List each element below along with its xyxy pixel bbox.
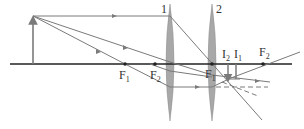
focal-point-dot (123, 62, 127, 66)
dashed-extension (222, 82, 258, 96)
focal-point-dot (261, 62, 265, 66)
ray-arrow-icon (112, 14, 117, 18)
lens-2-label: 2 (216, 2, 222, 16)
focal-point-dot (210, 62, 214, 66)
focal-point-dot (153, 62, 157, 66)
focal-label-f2-left: F2 (150, 68, 161, 84)
image-label-i2: I2 (222, 47, 230, 63)
focal-label-f2-right: F2 (259, 45, 270, 61)
lens-1-label: 1 (161, 2, 167, 16)
optics-diagram: 1 2 F1 F2 F1 F2 I2 I1 (0, 0, 304, 129)
ray-arrow-icon (255, 79, 260, 83)
focal-label-f1-left: F1 (119, 68, 130, 84)
image-label-i1: I1 (234, 47, 242, 63)
ray-arrow-icon (195, 85, 200, 89)
